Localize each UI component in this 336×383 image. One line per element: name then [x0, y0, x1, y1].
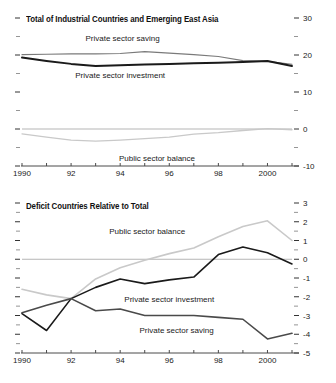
chart-figure: Total of Industrial Countries and Emergi… — [0, 0, 336, 383]
plot-area-top — [0, 0, 336, 192]
x-axis-tick-label: 94 — [116, 169, 125, 178]
y-axis-tick-label: 10 — [303, 88, 312, 97]
x-axis-tick-label: 96 — [165, 356, 174, 365]
y-axis-tick-label: -3 — [303, 311, 310, 320]
series-annotation-label: Private sector saving — [85, 34, 159, 43]
x-axis-tick-label: 96 — [165, 169, 174, 178]
plot-area-bottom — [0, 190, 336, 383]
plot-svg — [0, 0, 336, 192]
series-annotation-label: Private sector investment — [75, 71, 165, 80]
y-axis-tick-label: -1 — [303, 274, 310, 283]
series-annotation-label: Private sector saving — [139, 326, 213, 335]
y-axis-tick-label: -5 — [303, 349, 310, 358]
x-axis-tick-label: 92 — [67, 356, 76, 365]
plot-svg — [0, 190, 336, 383]
y-axis-tick-label: 20 — [303, 51, 312, 60]
x-axis-tick-label: 2000 — [259, 169, 277, 178]
y-axis-tick-label: -10 — [303, 162, 315, 171]
y-axis-tick-label: 0 — [303, 125, 307, 134]
series-annotation-label: Private sector investment — [124, 295, 214, 304]
y-axis-tick-label: 3 — [303, 199, 307, 208]
chart-panel-bottom: Deficit Countries Relative to Total 3210… — [0, 190, 336, 383]
y-axis-tick-label: 1 — [303, 236, 307, 245]
x-axis-tick-label: 1990 — [13, 169, 31, 178]
x-axis-tick-label: 98 — [214, 356, 223, 365]
series-annotation-label: Public sector balance — [119, 154, 195, 163]
y-axis-tick-label: 2 — [303, 217, 307, 226]
series-line-3 — [22, 129, 292, 142]
x-axis-tick-label: 2000 — [259, 356, 277, 365]
x-axis-tick-label: 92 — [67, 169, 76, 178]
y-axis-tick-label: 0 — [303, 255, 307, 264]
y-axis-tick-label: -4 — [303, 330, 310, 339]
series-line-2 — [22, 58, 292, 67]
y-axis-tick-label: 30 — [303, 14, 312, 23]
series-annotation-label: Public sector balance — [109, 227, 185, 236]
x-axis-tick-label: 94 — [116, 356, 125, 365]
chart-panel-top: Total of Industrial Countries and Emergi… — [0, 0, 336, 192]
y-axis-tick-label: -2 — [303, 292, 310, 301]
x-axis-tick-label: 1990 — [13, 356, 31, 365]
x-axis-tick-label: 98 — [214, 169, 223, 178]
